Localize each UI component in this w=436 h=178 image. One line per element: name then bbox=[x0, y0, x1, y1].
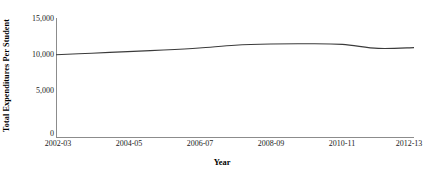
x-tick-label-2010-11: 2010-11 bbox=[312, 139, 372, 149]
x-axis-title: Year bbox=[0, 158, 436, 167]
x-tick-label-2004-05: 2004-05 bbox=[99, 139, 159, 149]
plot-svg bbox=[56, 18, 414, 138]
x-tick-label-2002-03: 2002-03 bbox=[28, 139, 88, 149]
y-tick-label-15000: 15,000 bbox=[16, 14, 54, 23]
y-tick-label-10000: 10,000 bbox=[16, 50, 54, 59]
plot-area bbox=[56, 18, 414, 138]
y-tick-label-0: 0 bbox=[16, 129, 54, 138]
x-tick-label-2006-07: 2006-07 bbox=[170, 139, 230, 149]
x-axis-title-label: Year bbox=[214, 158, 231, 167]
y-axis-title: Total Expenditures Per Student bbox=[0, 0, 14, 150]
line-chart: Total Expenditures Per Student 15,000 10… bbox=[0, 0, 436, 178]
y-tick-label-5000: 5,000 bbox=[16, 86, 54, 95]
y-axis-title-label: Total Expenditures Per Student bbox=[3, 18, 12, 131]
x-tick-label-2008-09: 2008-09 bbox=[241, 139, 301, 149]
x-axis-tick-labels: 2002-03 2004-05 2006-07 2008-09 2010-11 … bbox=[0, 139, 436, 153]
series-line-total-expenditures-per-student bbox=[56, 44, 414, 55]
x-tick-label-2012-13: 2012-13 bbox=[379, 139, 436, 149]
